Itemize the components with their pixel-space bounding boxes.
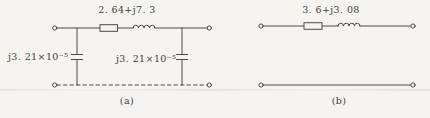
- caption-b: (b): [319, 95, 359, 106]
- capacitor-icon: [177, 28, 188, 85]
- shunt-admittance-label-a-left: j3. 21×10⁻⁵: [8, 51, 68, 62]
- terminal-icon: [53, 26, 57, 30]
- resistor-icon: [304, 23, 322, 30]
- terminal-icon: [53, 83, 57, 87]
- inductor-icon: [338, 23, 360, 26]
- series-impedance-label-a: 2. 64+j7. 3: [91, 4, 163, 15]
- circuit-b: [259, 23, 415, 87]
- shunt-admittance-label-a-right: j3. 21×10⁻⁵: [116, 53, 176, 64]
- terminal-icon: [411, 83, 415, 87]
- inductor-icon: [133, 25, 155, 28]
- terminal-icon: [411, 24, 415, 28]
- terminal-icon: [259, 83, 263, 87]
- terminal-icon: [259, 24, 263, 28]
- circuit-figure: 2. 64+j7. 3 j3. 21×10⁻⁵ j3. 21×10⁻⁵ (a) …: [0, 0, 430, 118]
- caption-a: (a): [107, 95, 147, 106]
- capacitor-icon: [72, 28, 83, 85]
- resistor-icon: [100, 25, 118, 32]
- series-impedance-label-b: 3. 6+j3. 08: [294, 4, 368, 15]
- terminal-icon: [207, 26, 211, 30]
- terminal-icon: [207, 83, 211, 87]
